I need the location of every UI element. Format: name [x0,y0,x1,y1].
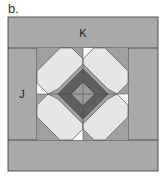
quilt-block-diagram: K J [0,0,161,176]
band-label-k: K [79,27,87,39]
center-panel [37,48,128,140]
band-label-j: J [19,88,25,100]
